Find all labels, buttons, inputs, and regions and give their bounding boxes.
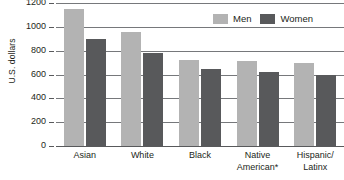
y-tick-label: 800 <box>0 46 46 55</box>
y-tick-label: 400 <box>0 93 46 102</box>
bar-women-3 <box>259 72 279 146</box>
bar-men-4 <box>294 63 314 146</box>
y-tick-mark <box>49 122 54 123</box>
plot-area <box>56 3 344 146</box>
y-tick-mark <box>49 98 54 99</box>
legend-label: Women <box>280 14 313 24</box>
chart-legend: MenWomen <box>213 14 313 24</box>
bar-men-1 <box>121 32 141 146</box>
y-tick-label: 600 <box>0 70 46 79</box>
legend-item-women: Women <box>260 14 313 24</box>
legend-label: Men <box>233 14 251 24</box>
y-tick-label: 1000 <box>0 22 46 31</box>
gridline-1200 <box>56 3 344 4</box>
x-label-line: Hispanic/ <box>280 150 344 162</box>
legend-item-men: Men <box>213 14 251 24</box>
y-tick-mark <box>49 3 54 4</box>
y-tick-label: 1200 <box>0 0 46 7</box>
x-label-line: Latinx <box>280 162 344 174</box>
y-tick-label: 200 <box>0 117 46 126</box>
legend-swatch-icon <box>260 14 275 24</box>
x-axis-label-4: Hispanic/Latinx <box>280 150 344 173</box>
bar-women-4 <box>316 75 336 147</box>
bar-chart: U.S. dollars 120010008006004002000 Asian… <box>0 0 344 180</box>
y-tick-mark <box>49 146 54 147</box>
bar-women-2 <box>201 69 221 146</box>
y-tick-mark <box>49 27 54 28</box>
gridline-0 <box>56 146 344 147</box>
bar-women-0 <box>86 39 106 146</box>
gridline-1000 <box>56 27 344 28</box>
bar-men-2 <box>179 60 199 146</box>
y-tick-mark <box>49 51 54 52</box>
y-tick-label: 0 <box>0 141 46 150</box>
legend-swatch-icon <box>213 14 228 24</box>
bar-women-1 <box>143 53 163 146</box>
y-tick-mark <box>49 75 54 76</box>
bar-men-3 <box>237 61 257 146</box>
bar-men-0 <box>64 9 84 146</box>
